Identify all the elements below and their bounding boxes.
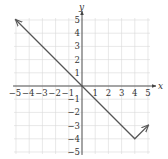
x-tick-label: 4 — [132, 88, 137, 98]
y-tick-label: 1 — [75, 68, 80, 78]
y-tick-label: 4 — [75, 28, 80, 38]
x-tick-label: 2 — [106, 88, 111, 98]
y-tick-label: 3 — [75, 41, 80, 51]
y-tick-label: −4 — [67, 134, 80, 144]
y-tick-label: −1 — [67, 94, 80, 104]
function-graph: −5−4−3−2−11234554321−1−2−3−4−5 x y — [0, 0, 168, 159]
y-tick-label: 5 — [75, 15, 80, 25]
x-tick-label: 5 — [145, 88, 150, 98]
y-axis-label: y — [78, 2, 85, 12]
x-tick-label: −3 — [35, 88, 48, 98]
x-tick-label: −2 — [48, 88, 61, 98]
x-tick-label: −5 — [9, 88, 22, 98]
y-tick-label: −5 — [67, 147, 80, 157]
y-tick-label: −2 — [67, 107, 80, 117]
x-tick-label: 3 — [119, 88, 124, 98]
x-tick-label: −4 — [22, 88, 35, 98]
y-tick-label: −3 — [67, 121, 80, 131]
y-tick-label: 2 — [75, 55, 80, 65]
x-axis-label: x — [158, 81, 163, 91]
